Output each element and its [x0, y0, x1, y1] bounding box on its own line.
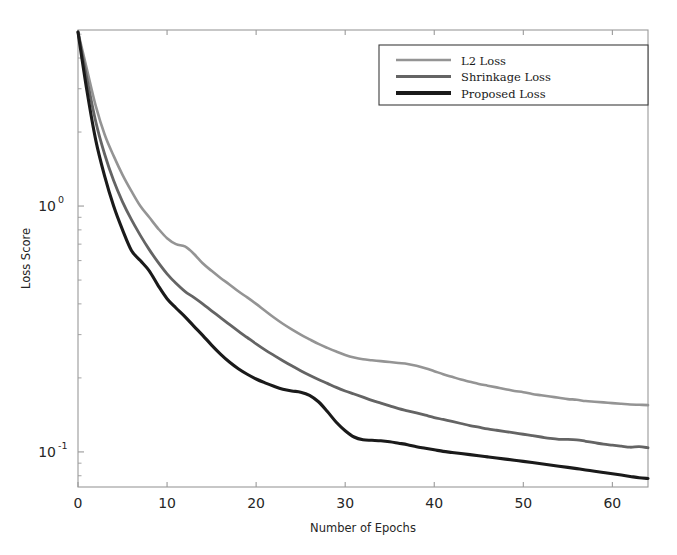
loss-curve-chart: 010203040506010010-1Number of EpochsLoss…: [0, 0, 677, 555]
y-tick-base: 10: [38, 444, 56, 460]
x-tick-label: 40: [425, 495, 443, 511]
x-tick-label: 60: [603, 495, 621, 511]
legend-label-l2-loss: L2 Loss: [461, 54, 506, 68]
y-tick-exponent: -1: [58, 440, 67, 451]
x-tick-label: 20: [247, 495, 265, 511]
x-tick-label: 50: [514, 495, 532, 511]
legend-label-proposed-loss: Proposed Loss: [461, 87, 546, 101]
y-axis-title: Loss Score: [19, 228, 33, 289]
figure-container: 010203040506010010-1Number of EpochsLoss…: [0, 0, 677, 555]
y-tick-base: 10: [38, 198, 56, 214]
legend: L2 LossShrinkage LossProposed Loss: [379, 45, 648, 105]
axis-labels-layer: 010203040506010010-1Number of EpochsLoss…: [19, 194, 621, 535]
y-tick-label: 10-1: [38, 440, 67, 460]
x-tick-label: 0: [74, 495, 83, 511]
x-tick-label: 30: [336, 495, 354, 511]
y-tick-label: 100: [38, 194, 64, 214]
x-axis-title: Number of Epochs: [310, 521, 416, 535]
y-tick-exponent: 0: [58, 194, 64, 205]
x-tick-label: 10: [158, 495, 176, 511]
legend-label-shrinkage-loss: Shrinkage Loss: [461, 70, 551, 84]
